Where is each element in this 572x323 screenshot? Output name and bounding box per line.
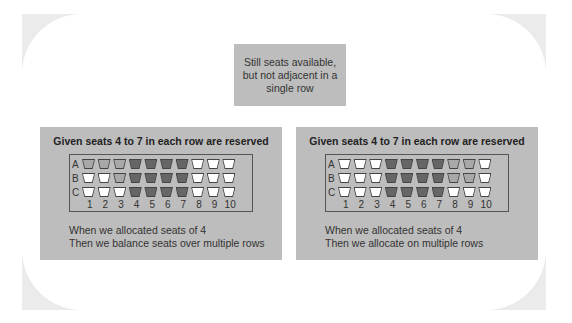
seat-icon [176,187,189,197]
seat-icon [478,173,491,183]
seat-icon [129,173,142,183]
seat-number: 5 [400,199,416,210]
seat-icon [400,187,413,197]
seat-number: 8 [191,199,207,210]
seat-number: 5 [144,199,160,210]
seat-icon [191,187,204,197]
seat-icon [354,187,367,197]
seat-row-a: A [328,157,494,171]
seat-icon [207,159,220,169]
seat-icon [369,173,382,183]
seat-number: 9 [463,199,479,210]
seat-number: 7 [432,199,448,210]
seat-icon [432,187,445,197]
seat-number: 9 [207,199,223,210]
seat-icon [400,173,413,183]
seat-icon [354,173,367,183]
seat-icon [82,159,95,169]
seat-icon [176,173,189,183]
seat-grid: ABC12345678910 [69,154,253,212]
seat-icon [222,159,235,169]
seat-icon [338,159,351,169]
seat-number: 4 [385,199,401,210]
seat-icon [160,159,173,169]
panel-title: Given seats 4 to 7 in each row are reser… [40,135,282,147]
seat-icon [369,159,382,169]
seat-icon [82,187,95,197]
seat-row-c: C [328,185,494,199]
seat-icon [144,159,157,169]
seat-icon [447,173,460,183]
panel-multiple-rows: Given seats 4 to 7 in each row are reser… [296,127,538,260]
seat-icon [160,187,173,197]
seat-number: 3 [113,199,129,210]
seat-row-c: C [72,185,238,199]
seat-icon [207,187,220,197]
seat-number: 2 [354,199,370,210]
seat-icon [222,187,235,197]
row-label: B [72,173,82,184]
seat-icon [129,159,142,169]
seat-icon [222,173,235,183]
row-label: C [72,187,82,198]
seat-icon [207,173,220,183]
note-text: Still seats available, but not adjacent … [238,56,342,95]
row-label: A [328,159,338,170]
seat-number: 10 [222,199,238,210]
seat-icon [82,173,95,183]
seat-icon [478,159,491,169]
seat-icon [354,159,367,169]
seat-icon [447,187,460,197]
row-label: C [328,187,338,198]
seat-icon [416,187,429,197]
seat-row-b: B [328,171,494,185]
seat-icon [385,159,398,169]
seat-icon [144,187,157,197]
seat-row-b: B [72,171,238,185]
seat-number: 6 [416,199,432,210]
row-label: A [72,159,82,170]
seat-icon [113,187,126,197]
caption-line-1: When we allocated seats of 4 [69,224,265,237]
note-box: Still seats available, but not adjacent … [234,44,346,106]
caption-line-1: When we allocated seats of 4 [325,224,483,237]
seat-icon [416,159,429,169]
seat-numbers: 12345678910 [82,199,238,210]
seat-icon [176,159,189,169]
seat-icon [191,159,204,169]
seat-icon [129,187,142,197]
seat-number: 4 [129,199,145,210]
seat-icon [447,159,460,169]
panel-balance: Given seats 4 to 7 in each row are reser… [40,127,282,260]
seat-icon [98,187,111,197]
seat-number: 7 [176,199,192,210]
seat-number: 10 [478,199,494,210]
seat-number: 8 [447,199,463,210]
seat-number: 1 [82,199,98,210]
seat-icon [369,187,382,197]
row-label: B [328,173,338,184]
panel-caption: When we allocated seats of 4 Then we bal… [69,224,265,250]
seat-icon [432,173,445,183]
seat-number: 6 [160,199,176,210]
seat-number: 1 [338,199,354,210]
seat-number: 3 [369,199,385,210]
panel-title: Given seats 4 to 7 in each row are reser… [296,135,538,147]
seat-icon [98,159,111,169]
seat-icon [385,187,398,197]
seat-icon [338,173,351,183]
seat-icon [338,187,351,197]
seat-row-a: A [72,157,238,171]
seat-icon [191,173,204,183]
panel-caption: When we allocated seats of 4 Then we all… [325,224,483,250]
seat-icon [144,173,157,183]
seat-icon [160,173,173,183]
seat-icon [400,159,413,169]
seat-icon [113,159,126,169]
seat-icon [98,173,111,183]
seat-icon [385,173,398,183]
caption-line-2: Then we balance seats over multiple rows [69,237,265,250]
seat-number: 2 [98,199,114,210]
seat-icon [432,159,445,169]
seat-icon [463,187,476,197]
